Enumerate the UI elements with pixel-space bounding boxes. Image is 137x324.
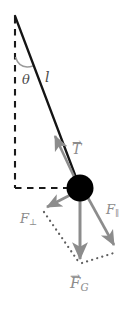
force-gravity-label: → F G [70,276,89,293]
angle-theta-label: θ [22,73,30,86]
diagram-canvas [0,0,137,324]
tension-vector-label: → T [72,142,81,156]
dotted-construction-line-left [44,212,78,261]
pendulum-force-diagram: θ l → T F⊥ F∥ → F G [0,0,137,324]
vector-accent-tension: → [72,137,81,148]
vector-accent-gravity: → [70,270,80,282]
pendulum-bob [67,175,94,202]
rod-length-label: l [45,70,49,84]
force-par-subscript: ∥ [115,208,119,218]
force-perp-symbol: F [20,211,29,226]
force-par-symbol: F [106,202,115,217]
force-parallel-label: F∥ [106,203,119,217]
pendulum-rod [15,16,80,188]
force-perpendicular-label: F⊥ [20,212,37,226]
force-perp-subscript: ⊥ [29,217,37,227]
dotted-construction-line-right [82,252,117,263]
force-gravity-subscript: G [80,282,88,293]
